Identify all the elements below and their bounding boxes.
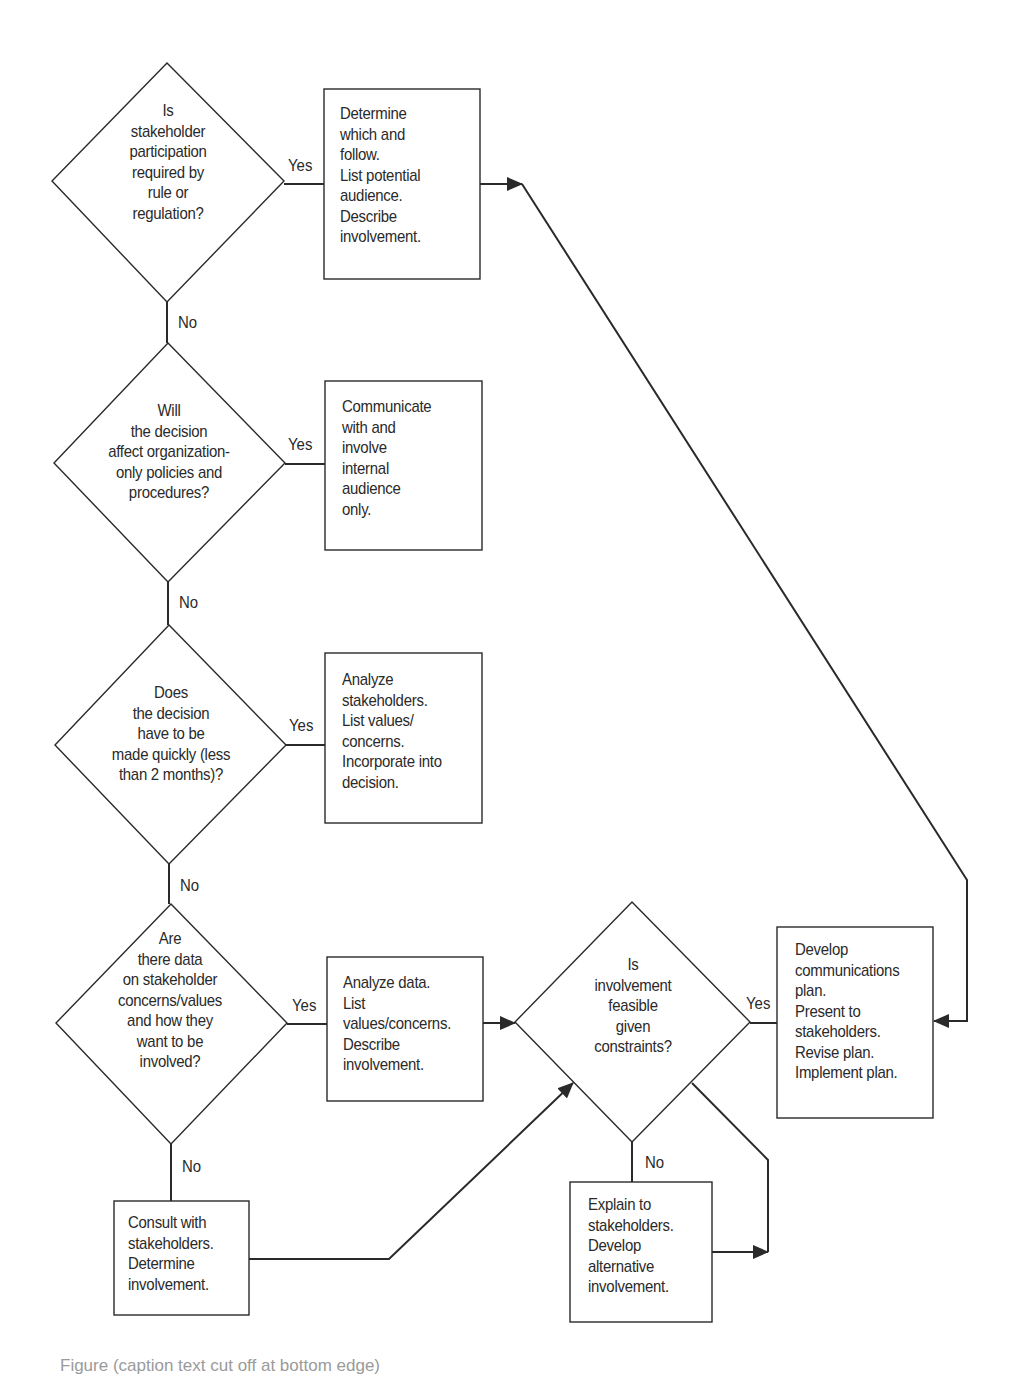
decision-text-regulation: Is stakeholder participation required by… <box>97 101 240 224</box>
label-d2-yes: Yes <box>288 435 312 455</box>
process-text-communications-plan: Develop communications plan. Present to … <box>795 940 936 1084</box>
decision-text-decide-quickly: Does the decision have to be made quickl… <box>87 683 254 786</box>
process-text-analyze-stakeholders: Analyze stakeholders. List values/ conce… <box>342 670 483 793</box>
label-d3-no: No <box>180 876 199 896</box>
label-d4-no: No <box>182 1157 201 1177</box>
decision-text-involvement-feasible: Is involvement feasible given constraint… <box>576 955 690 1058</box>
process-text-analyze-data: Analyze data. List values/concerns. Desc… <box>343 973 484 1076</box>
process-text-internal-audience: Communicate with and involve internal au… <box>342 397 474 520</box>
label-d2-no: No <box>179 593 198 613</box>
figure-caption: Figure (caption text cut off at bottom e… <box>60 1356 1000 1378</box>
process-text-consult-stakeholders: Consult with stakeholders. Determine inv… <box>128 1213 251 1295</box>
decision-text-organization-only: Will the decision affect organization- o… <box>87 401 251 504</box>
connector-p1-long-diagonal <box>522 184 967 1021</box>
label-d3-yes: Yes <box>289 716 313 736</box>
label-d1-no: No <box>178 313 197 333</box>
label-d5-yes: Yes <box>746 994 770 1014</box>
decision-text-stakeholder-data: Are there data on stakeholder concerns/v… <box>96 929 244 1073</box>
label-d1-yes: Yes <box>288 156 312 176</box>
label-d4-yes: Yes <box>292 996 316 1016</box>
process-text-determine-which: Determine which and follow. List potenti… <box>340 104 472 248</box>
process-text-explain-alternative: Explain to stakeholders. Develop alterna… <box>588 1195 711 1298</box>
label-d5-no: No <box>645 1153 664 1173</box>
connector-p5-to-d5 <box>249 1083 573 1259</box>
